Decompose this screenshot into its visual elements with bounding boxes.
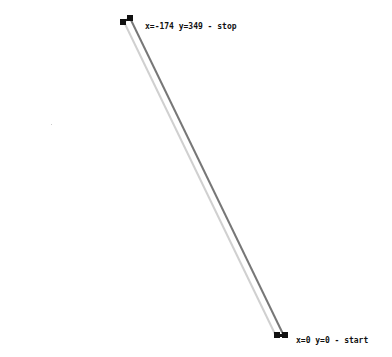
stray-pixel [51,124,52,125]
start-point-label: x=0 y=0 - start [296,336,368,345]
stop-point-label: x=-174 y=349 - stop [145,22,237,31]
shadow-path-line [125,24,276,336]
stop-endpoint-marker [120,15,133,25]
path-diagram [0,0,392,357]
start-endpoint-marker [274,332,288,338]
start-endpoint-connector [278,334,284,337]
path-line [130,18,283,334]
